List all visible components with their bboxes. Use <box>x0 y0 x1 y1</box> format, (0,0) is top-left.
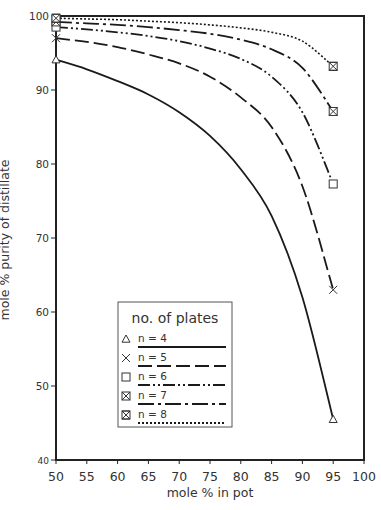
series-marker-end <box>329 62 337 70</box>
series-marker-start <box>52 56 60 63</box>
x-tick-label: 60 <box>110 469 126 484</box>
x-tick-label: 100 <box>352 469 376 484</box>
series-line-n7 <box>56 22 333 112</box>
legend-entry-label: n = 8 <box>138 408 167 420</box>
x-tick-label: 75 <box>202 469 218 484</box>
y-tick-label: 60 <box>36 306 49 318</box>
y-tick-label: 40 <box>38 456 50 466</box>
legend-entry-label: n = 5 <box>138 351 167 363</box>
x-tick-label: 65 <box>140 469 156 484</box>
x-tick-label: 55 <box>79 469 95 484</box>
chart: 50556065707580859095100405060708090100 n… <box>0 0 381 510</box>
y-tick-label: 70 <box>36 232 49 244</box>
series-marker-start <box>52 14 60 22</box>
y-tick-label: 90 <box>36 84 49 96</box>
x-tick-label: 85 <box>264 469 280 484</box>
series-line-n8 <box>56 18 333 66</box>
series-marker-end <box>329 107 337 115</box>
x-tick-label: 90 <box>294 469 310 484</box>
legend-entry-label: n = 6 <box>138 370 167 382</box>
legend: no. of platesn = 4n = 5n = 6n = 7n = 8 <box>118 302 232 427</box>
y-axis-label: mole % purity of distillate <box>0 159 12 320</box>
series-marker-end <box>329 415 337 422</box>
y-tick-label: 50 <box>36 380 49 392</box>
y-tick-label: 80 <box>36 158 49 170</box>
series-line-n5 <box>56 38 333 290</box>
x-tick-label: 80 <box>233 469 249 484</box>
legend-title: no. of plates <box>132 310 219 326</box>
y-tick-label: 100 <box>29 10 49 22</box>
x-tick-label: 70 <box>171 469 187 484</box>
legend-entry-label: n = 7 <box>138 389 167 401</box>
legend-entry-label: n = 4 <box>138 332 167 344</box>
series-marker-end <box>329 180 337 188</box>
x-tick-label: 95 <box>325 469 341 484</box>
legend-marker-icon <box>122 411 130 419</box>
x-axis-label: mole % in pot <box>167 485 254 500</box>
x-tick-label: 50 <box>48 469 64 484</box>
legend-marker-icon <box>122 373 130 381</box>
legend-marker-icon <box>122 392 130 400</box>
